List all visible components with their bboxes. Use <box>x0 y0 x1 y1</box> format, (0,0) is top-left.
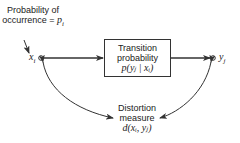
distortion-formula: d(xᵢ, yⱼ) <box>113 123 161 133</box>
channel-distortion-diagram: Probability of occurrence = pi xi Transi… <box>0 0 240 143</box>
input-node-label: xi <box>29 52 35 66</box>
transition-box-formula: p(yⱼ | xᵢ) <box>122 63 154 73</box>
distortion-line1: Distortion <box>113 103 161 113</box>
output-node-label: yj <box>219 52 225 66</box>
distortion-measure-label: Distortion measure d(xᵢ, yⱼ) <box>113 103 161 133</box>
probability-label: Probability of occurrence = pi <box>2 5 64 29</box>
probability-label-line2: occurrence = pi <box>2 15 64 29</box>
output-node-circle <box>211 56 216 61</box>
probability-label-line1: Probability of <box>2 5 64 15</box>
transition-probability-box: Transition probability p(yⱼ | xᵢ) <box>104 39 171 77</box>
input-node-circle <box>39 56 44 61</box>
transition-box-line1: Transition <box>118 43 157 53</box>
input-distortion-curve <box>43 62 113 118</box>
